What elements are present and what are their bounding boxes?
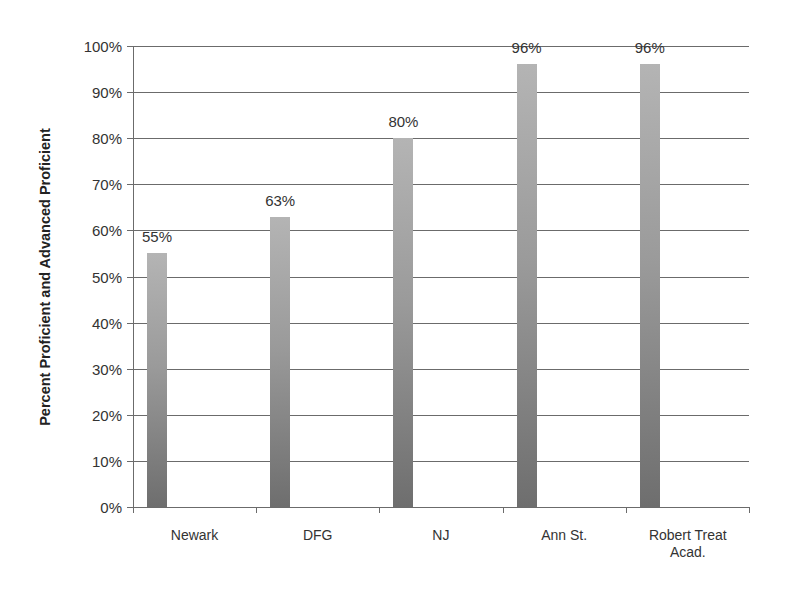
y-tick-label: 20% xyxy=(58,406,122,423)
y-tick-label: 0% xyxy=(58,499,122,516)
x-tick xyxy=(133,507,134,513)
bar xyxy=(270,217,290,507)
x-tick xyxy=(256,507,257,513)
y-tick-label: 60% xyxy=(58,222,122,239)
y-tick-label: 10% xyxy=(58,452,122,469)
value-label: 63% xyxy=(250,192,310,209)
value-label: 80% xyxy=(373,113,433,130)
bar xyxy=(640,64,660,507)
value-label: 96% xyxy=(620,39,680,56)
x-tick-label: NJ xyxy=(379,527,502,544)
y-tick-label: 50% xyxy=(58,268,122,285)
y-axis-line xyxy=(133,46,134,507)
bar xyxy=(517,64,537,507)
bar xyxy=(147,253,167,507)
x-tick-label: Robert Treat Acad. xyxy=(648,527,728,561)
gridline xyxy=(133,507,749,508)
x-tick xyxy=(749,507,750,513)
x-tick-label: DFG xyxy=(256,527,379,544)
bar xyxy=(393,138,413,507)
y-tick-label: 90% xyxy=(58,84,122,101)
x-tick-label: Newark xyxy=(133,527,256,544)
bar-chart: Percent Proficient and Advanced Proficie… xyxy=(0,0,785,593)
y-tick-label: 40% xyxy=(58,314,122,331)
y-tick-label: 30% xyxy=(58,360,122,377)
y-tick-label: 100% xyxy=(58,38,122,55)
y-tick-label: 80% xyxy=(58,130,122,147)
value-label: 96% xyxy=(497,39,557,56)
value-label: 55% xyxy=(127,228,187,245)
x-tick xyxy=(626,507,627,513)
x-tick-label: Ann St. xyxy=(503,527,626,544)
y-tick-label: 70% xyxy=(58,176,122,193)
x-tick xyxy=(379,507,380,513)
y-axis-title: Percent Proficient and Advanced Proficie… xyxy=(37,128,53,426)
x-tick xyxy=(503,507,504,513)
